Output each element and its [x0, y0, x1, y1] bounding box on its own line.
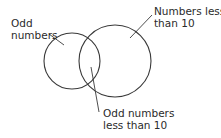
intersection-label-line-2: less than 10	[103, 119, 174, 131]
odd-numbers-label-line-1: Odd	[11, 17, 57, 29]
numbers-less-than-10-label-line-1: Numbers less	[154, 5, 221, 17]
odd-numbers-circle	[44, 33, 100, 89]
intersection-label-line-1: Odd numbers	[103, 107, 174, 119]
intersection-label: Odd numbers less than 10	[103, 107, 174, 131]
numbers-less-than-10-leader-line	[130, 15, 152, 38]
numbers-less-than-10-label: Numbers less than 10	[154, 5, 221, 29]
numbers-less-than-10-label-line-2: than 10	[154, 17, 221, 29]
odd-numbers-label: Odd numbers	[11, 17, 57, 41]
numbers-less-than-10-circle	[79, 25, 151, 97]
odd-numbers-label-line-2: numbers	[11, 29, 57, 41]
